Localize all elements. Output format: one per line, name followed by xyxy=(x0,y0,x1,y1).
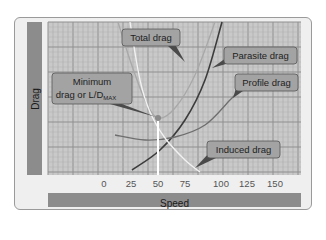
x-tick-label: 25 xyxy=(126,178,137,189)
x-axis-label-bar: Speed xyxy=(48,193,301,207)
svg-text:Profile drag: Profile drag xyxy=(242,77,291,88)
x-tick-label: 75 xyxy=(180,178,191,189)
x-tick-label: 100 xyxy=(213,178,229,189)
x-tick-label: 0 xyxy=(101,178,106,189)
x-tick-label: 125 xyxy=(239,178,255,189)
minimum-point-marker xyxy=(155,115,161,121)
svg-text:Total drag: Total drag xyxy=(130,32,172,43)
svg-text:Parasite drag: Parasite drag xyxy=(232,50,289,61)
svg-text:Induced drag: Induced drag xyxy=(216,144,271,155)
x-tick-label: 50 xyxy=(153,178,164,189)
x-axis-label: Speed xyxy=(160,198,189,209)
x-tick-label: 150 xyxy=(267,178,283,189)
svg-text:Minimum: Minimum xyxy=(73,76,112,87)
